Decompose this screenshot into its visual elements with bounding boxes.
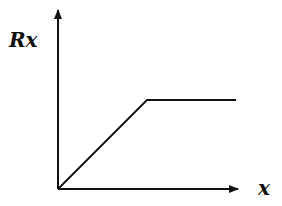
diagram: Rx x	[0, 0, 282, 206]
y-axis-label: Rx	[9, 28, 38, 52]
plot-area	[0, 0, 282, 206]
x-axis-label: x	[258, 176, 270, 200]
rx-curve	[58, 100, 236, 189]
